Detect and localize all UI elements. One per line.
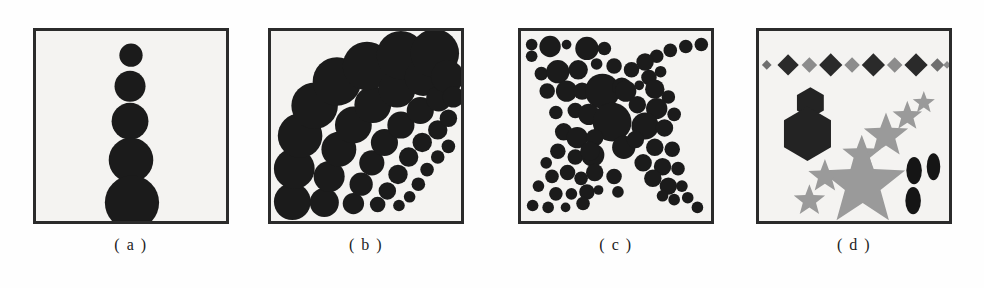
diamond-marker (887, 57, 903, 73)
circle-marker (379, 182, 396, 199)
circle-marker (646, 139, 663, 156)
circle-marker (656, 119, 673, 136)
circle-marker (442, 140, 456, 154)
diamond-marker (943, 61, 949, 69)
circle-marker (624, 62, 640, 78)
circle-marker (561, 203, 571, 213)
circle-marker (692, 202, 704, 214)
star-marker (794, 184, 825, 214)
circle-marker (679, 40, 693, 54)
circle-marker (404, 191, 416, 203)
circle-marker (612, 186, 624, 198)
circle-marker (526, 50, 538, 62)
circle-marker (598, 42, 612, 56)
panel-a (33, 28, 229, 224)
circle-marker (606, 58, 622, 74)
circle-marker (539, 83, 555, 99)
circle-marker (393, 200, 405, 212)
circle-marker (550, 143, 566, 159)
panel-d-caption: ( d ) (756, 236, 952, 254)
circle-marker (388, 165, 407, 184)
circle-marker (542, 202, 554, 214)
circle-marker (549, 187, 563, 201)
ellipse-marker (905, 187, 921, 214)
circle-marker (412, 177, 426, 191)
ellipse-marker (927, 153, 941, 180)
circle-marker (576, 197, 590, 211)
circle-marker (627, 131, 644, 148)
circle-marker (535, 67, 549, 81)
circle-marker (575, 37, 598, 60)
circle-marker (655, 66, 667, 78)
circle-marker (413, 133, 432, 152)
circle-marker (657, 190, 669, 202)
circle-marker (566, 188, 578, 200)
panel-d-plot (759, 31, 949, 221)
circle-marker (119, 44, 142, 67)
panel-a-plot (36, 31, 226, 221)
circle-marker (526, 39, 538, 51)
circle-marker (310, 188, 339, 217)
circle-marker (671, 162, 685, 176)
group-ellipses (905, 153, 940, 214)
circle-marker (560, 165, 576, 181)
circle-marker (644, 170, 661, 187)
circle-marker (645, 79, 664, 98)
diamond-marker (777, 54, 798, 75)
circle-marker (527, 200, 539, 212)
circle-marker (606, 169, 622, 185)
circle-marker (591, 58, 603, 70)
group-diamond-row (762, 53, 949, 76)
panel-c-plot (521, 31, 711, 221)
circle-marker (574, 172, 588, 186)
circle-marker (545, 170, 559, 184)
star-marker (808, 159, 841, 191)
circle-marker (440, 110, 457, 127)
star-marker (893, 101, 923, 129)
circle-marker (533, 180, 545, 192)
circle-marker (668, 194, 680, 206)
circle-marker (682, 192, 694, 204)
circle-marker (546, 60, 569, 83)
panel-c-caption: ( c ) (518, 236, 714, 254)
group-hexagons (784, 87, 831, 161)
circle-marker (695, 38, 709, 52)
circle-marker (580, 142, 599, 161)
diamond-marker (862, 53, 885, 76)
circle-marker (586, 164, 603, 181)
diamond-marker (844, 57, 860, 73)
circle-marker (370, 197, 386, 213)
diamond-marker (819, 53, 842, 76)
diamond-marker (802, 57, 818, 73)
circle-marker (549, 106, 563, 120)
diamond-marker (904, 53, 927, 76)
circle-marker (594, 185, 604, 195)
circle-marker (667, 108, 681, 122)
panel-c (518, 28, 714, 224)
circle-marker (350, 173, 373, 196)
circle-marker (629, 96, 646, 113)
circle-marker (112, 103, 149, 140)
circle-marker (539, 36, 560, 57)
panel-a-caption: ( a ) (33, 236, 229, 254)
panel-d (756, 28, 952, 224)
circle-marker (420, 163, 434, 177)
circle-marker (664, 44, 678, 58)
circle-marker (664, 142, 680, 158)
circle-marker (634, 154, 651, 171)
panel-b-plot (271, 31, 461, 221)
circle-marker (105, 175, 159, 221)
circle-marker (676, 180, 688, 192)
circle-marker (562, 40, 572, 50)
circle-marker (343, 193, 364, 214)
star-marker (913, 91, 935, 112)
circle-marker (569, 60, 588, 79)
circle-marker (399, 147, 418, 166)
diamond-marker (762, 60, 772, 70)
hexagon-marker (784, 107, 831, 161)
circle-marker (431, 150, 445, 164)
star-marker (820, 140, 905, 221)
circle-marker (115, 71, 146, 102)
diamond-marker (931, 58, 945, 72)
figure-container: ( a ) ( b ) ( c ) ( d ) (0, 0, 984, 288)
